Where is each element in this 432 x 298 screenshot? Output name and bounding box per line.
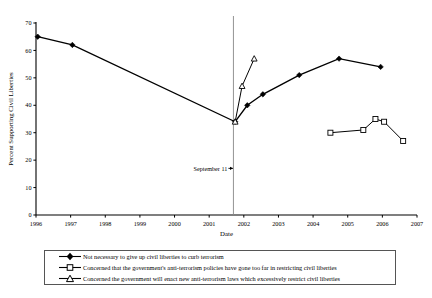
data-point-square bbox=[361, 127, 366, 132]
legend-label-1: Concerned that the government's anti-ter… bbox=[83, 262, 337, 273]
series-0 bbox=[35, 34, 383, 124]
svg-text:1996: 1996 bbox=[30, 220, 42, 227]
svg-text:60: 60 bbox=[25, 47, 31, 54]
svg-text:Date: Date bbox=[220, 230, 233, 237]
filled-diamond-icon bbox=[57, 251, 83, 262]
data-point-diamond bbox=[378, 64, 383, 69]
legend-item-0: Not necessary to give up civil liberties… bbox=[45, 251, 395, 262]
series-line bbox=[330, 119, 403, 141]
open-square-icon bbox=[57, 262, 83, 273]
plot-area: 010203040506070Percent Supporting Civil … bbox=[0, 0, 432, 250]
data-point-square bbox=[328, 130, 333, 135]
data-point-diamond bbox=[336, 56, 341, 61]
legend-label-2: Concerned the government will enact new … bbox=[83, 273, 340, 284]
svg-text:2000: 2000 bbox=[168, 220, 180, 227]
svg-text:1997: 1997 bbox=[64, 220, 76, 227]
series-line bbox=[235, 59, 254, 122]
svg-text:2004: 2004 bbox=[307, 220, 319, 227]
svg-text:70: 70 bbox=[25, 19, 31, 26]
svg-text:1998: 1998 bbox=[99, 220, 111, 227]
svg-text:40: 40 bbox=[25, 101, 31, 108]
svg-text:2002: 2002 bbox=[238, 220, 250, 227]
chart-svg: 010203040506070Percent Supporting Civil … bbox=[0, 0, 432, 250]
svg-text:2003: 2003 bbox=[272, 220, 284, 227]
legend-label-0: Not necessary to give up civil liberties… bbox=[83, 251, 224, 262]
annotation-arrow-icon bbox=[230, 167, 233, 170]
open-triangle-icon bbox=[57, 273, 83, 284]
svg-text:1999: 1999 bbox=[134, 220, 146, 227]
data-point-diamond bbox=[70, 42, 75, 47]
series-line bbox=[38, 37, 381, 122]
svg-text:10: 10 bbox=[25, 184, 31, 191]
series-2 bbox=[232, 56, 257, 124]
svg-text:20: 20 bbox=[25, 156, 31, 163]
svg-text:0: 0 bbox=[28, 211, 31, 218]
data-point-square bbox=[373, 117, 378, 122]
figure: 010203040506070Percent Supporting Civil … bbox=[0, 0, 432, 298]
svg-text:September 11: September 11 bbox=[193, 165, 227, 172]
chart-legend: Not necessary to give up civil liberties… bbox=[44, 250, 396, 285]
data-point-square bbox=[401, 138, 406, 143]
svg-text:50: 50 bbox=[25, 74, 31, 81]
svg-text:2007: 2007 bbox=[411, 220, 423, 227]
data-point-diamond bbox=[297, 72, 302, 77]
series-1 bbox=[328, 117, 406, 144]
data-point-triangle bbox=[251, 56, 257, 61]
data-point-triangle bbox=[239, 83, 245, 88]
svg-text:2001: 2001 bbox=[203, 220, 215, 227]
svg-text:2005: 2005 bbox=[342, 220, 354, 227]
legend-item-2: Concerned the government will enact new … bbox=[45, 273, 395, 284]
data-point-square bbox=[382, 119, 387, 124]
svg-text:2006: 2006 bbox=[376, 220, 388, 227]
legend-item-1: Concerned that the government's anti-ter… bbox=[45, 262, 395, 273]
svg-text:Percent Supporting Civil Liber: Percent Supporting Civil Liberties bbox=[7, 72, 14, 166]
svg-text:30: 30 bbox=[25, 129, 31, 136]
